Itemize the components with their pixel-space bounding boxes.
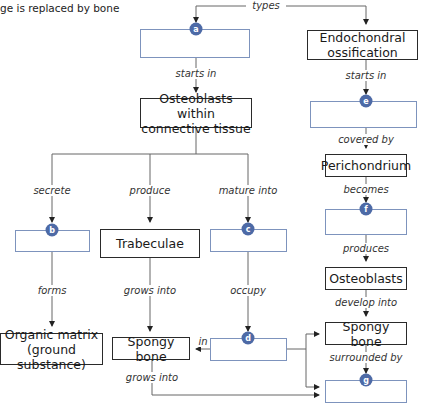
badge-d: d [242, 332, 255, 345]
badge-b: b [46, 224, 59, 237]
node-endochondral-ossification: Endochondral ossification [307, 30, 418, 60]
edge-label-grows-into-2: grows into [125, 372, 179, 383]
edge-label-secrete: secrete [32, 185, 71, 196]
edge-label-in: in [197, 336, 208, 347]
edge-label-covered-by: covered by [337, 134, 395, 145]
edge-label-starts-in-a: starts in [175, 68, 218, 79]
node-osteoblasts: Osteoblasts [325, 267, 407, 290]
badge-f: f [360, 203, 373, 216]
node-trabeculae: Trabeculae [100, 229, 200, 258]
edge-label-grows-into-1: grows into [123, 285, 177, 296]
edge-label-becomes: becomes [342, 184, 389, 195]
edge-label-produces: produces [342, 243, 390, 254]
badge-g: g [360, 374, 373, 387]
edge-label-develop-into: develop into [334, 297, 398, 308]
node-osteoblasts-connective-tissue: Osteoblasts within connective tissue [140, 98, 252, 128]
badge-c: c [242, 223, 255, 236]
edge-label-mature-into: mature into [218, 185, 279, 196]
edge-label-starts-in-endo: starts in [345, 70, 388, 81]
edge-label-types: types [251, 0, 281, 11]
edge-label-occupy: occupy [229, 285, 267, 296]
node-perichondrium: Perichondrium [325, 154, 407, 177]
edge-label-forms: forms [37, 285, 68, 296]
edge-label-surrounded-by: surrounded by [329, 352, 404, 363]
node-spongy-bone-right: Spongy bone [325, 322, 407, 345]
badge-a: a [190, 23, 203, 36]
badge-e: e [360, 95, 373, 108]
node-organic-matrix: Organic matrix (ground substance) [0, 333, 103, 365]
edge-label-produce: produce [129, 185, 172, 196]
node-spongy-bone-left: Spongy bone [112, 337, 190, 360]
